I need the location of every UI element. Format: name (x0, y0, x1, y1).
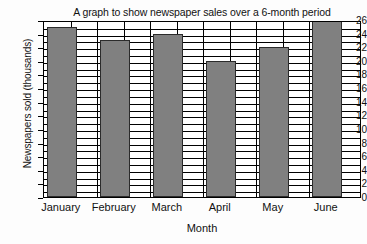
y-tick-label: 16 (333, 84, 367, 94)
y-tick-label: 14 (333, 98, 367, 108)
y-tick-mark (38, 35, 43, 36)
y-tick-label: 20 (333, 57, 367, 67)
x-axis-title: Month (43, 222, 361, 234)
bars-layer (44, 22, 360, 197)
y-axis (0, 21, 43, 198)
y-tick-label: 4 (333, 166, 367, 176)
y-tick-mark (38, 184, 43, 185)
y-tick-label: 2 (333, 179, 367, 189)
bar-january (47, 27, 77, 197)
y-tick-label: 22 (333, 43, 367, 53)
y-tick-label: 6 (333, 152, 367, 162)
bar-may (259, 47, 289, 197)
y-tick-label: 8 (333, 139, 367, 149)
y-tick-mark (38, 62, 43, 63)
y-tick-label: 24 (333, 30, 367, 40)
y-tick-mark (38, 103, 43, 104)
y-tick-mark (38, 21, 43, 22)
y-tick-mark (38, 48, 43, 49)
y-tick-mark (38, 157, 43, 158)
y-tick-mark (38, 144, 43, 145)
bar-february (100, 40, 130, 197)
y-tick-label: 18 (333, 70, 367, 80)
plot-inner (44, 22, 360, 197)
y-tick-label: 10 (333, 125, 367, 135)
y-tick-mark (38, 171, 43, 172)
y-tick-mark (38, 89, 43, 90)
y-tick-mark (38, 130, 43, 131)
chart-title: A graph to show newspaper sales over a 6… (43, 6, 361, 18)
x-tick-label-june: June (286, 201, 366, 213)
y-tick-label: 12 (333, 111, 367, 121)
y-tick-mark (38, 116, 43, 117)
bar-march (153, 34, 183, 197)
bar-chart: A graph to show newspaper sales over a 6… (0, 0, 367, 244)
plot-area (43, 21, 361, 198)
y-tick-mark (38, 75, 43, 76)
y-tick-label: 26 (333, 16, 367, 26)
bar-april (206, 61, 236, 197)
y-tick-mark (38, 198, 43, 199)
